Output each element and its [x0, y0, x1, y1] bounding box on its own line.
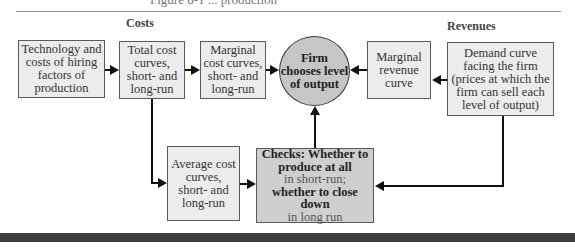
line-demand-down [502, 116, 504, 187]
arrowhead-icon [310, 106, 320, 115]
checks-line3: whether to close down [259, 186, 371, 211]
checks-line2: in short-run; [284, 173, 346, 186]
line-total-down [151, 99, 153, 184]
arrowhead-icon [191, 65, 200, 75]
demand-curve-box: Demand curve facing the firm (prices at … [447, 42, 554, 116]
arrowhead-icon [270, 65, 279, 75]
arrow-demand-to-mr [440, 79, 447, 81]
costs-label: Costs [126, 16, 154, 31]
checks-line4: in long run [288, 211, 343, 224]
arrow-mr-to-firm [358, 69, 367, 71]
figure-title-cutoff: Figure 8-1 ... production [150, 0, 277, 8]
arrowhead-icon [350, 65, 359, 75]
top-rule [16, 11, 561, 12]
arrowhead-icon [432, 75, 441, 85]
marginal-cost-box: Marginal cost curves, short- and long-ru… [200, 41, 266, 99]
arrowhead-icon [247, 179, 256, 189]
total-cost-box: Total cost curves, short- and long-run [119, 41, 185, 99]
average-cost-box: Average cost curves, short- and long-run [167, 146, 240, 221]
checks-line1: Checks: Whether to produce at all [259, 148, 371, 173]
arrow-checks-to-firm [314, 115, 316, 148]
arrowhead-icon [110, 65, 119, 75]
arrowhead-icon [375, 181, 384, 191]
bottom-rule-bar [0, 233, 575, 242]
arrowhead-icon [158, 178, 167, 188]
checks-box: Checks: Whether to produce at all in sho… [256, 148, 374, 223]
technology-box: Technology and costs of hiring factors o… [18, 40, 105, 98]
line-demand-to-checks [383, 185, 504, 187]
firm-chooses-circle: Firm chooses level of output [279, 36, 350, 106]
revenues-label: Revenues [447, 19, 496, 34]
marginal-revenue-box: Marginal revenue curve [367, 41, 431, 99]
